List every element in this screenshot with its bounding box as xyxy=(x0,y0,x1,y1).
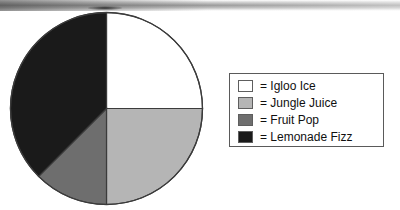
pie-chart-figure: = Igloo Ice = Jungle Juice = Fruit Pop =… xyxy=(0,0,400,210)
legend-swatch-jungle-juice xyxy=(238,97,253,109)
legend-swatch-fruit-pop xyxy=(238,114,253,126)
legend-item-igloo-ice[interactable]: = Igloo Ice xyxy=(238,78,383,94)
pie-chart-svg xyxy=(8,10,205,207)
legend-label-igloo-ice: = Igloo Ice xyxy=(260,80,316,92)
pie-slice-igloo-ice[interactable] xyxy=(107,13,203,109)
legend-label-jungle-juice: = Jungle Juice xyxy=(260,97,337,109)
legend: = Igloo Ice = Jungle Juice = Fruit Pop =… xyxy=(229,73,384,147)
legend-label-lemonade-fizz: = Lemonade Fizz xyxy=(260,131,352,143)
legend-item-lemonade-fizz[interactable]: = Lemonade Fizz xyxy=(238,129,383,145)
pie-slice-jungle-juice[interactable] xyxy=(107,109,203,205)
legend-swatch-lemonade-fizz xyxy=(238,131,253,143)
legend-item-jungle-juice[interactable]: = Jungle Juice xyxy=(238,95,383,111)
pie-chart xyxy=(8,10,205,207)
legend-label-fruit-pop: = Fruit Pop xyxy=(260,114,319,126)
pie-slices xyxy=(11,13,203,205)
legend-item-fruit-pop[interactable]: = Fruit Pop xyxy=(238,112,383,128)
legend-swatch-igloo-ice xyxy=(238,80,253,92)
